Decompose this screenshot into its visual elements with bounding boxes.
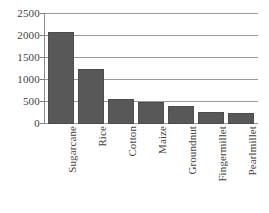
y-tick-label: 2000 — [4, 30, 40, 41]
bar-chart-figure: 2500 2000 1500 1000 500 0 Sugarcane — [0, 0, 269, 213]
y-tick-label: 0 — [4, 118, 40, 129]
x-axis-label: Maize — [157, 126, 168, 154]
bar-cotton[interactable] — [108, 99, 134, 124]
x-axis-label: Rice — [97, 126, 108, 147]
bars-layer — [44, 13, 258, 124]
x-axis-category-labels: Sugarcane Rice Cotton Maize Groundnut Fi… — [44, 124, 258, 213]
bar-groundnut[interactable] — [168, 106, 194, 124]
y-tick-label: 1000 — [4, 74, 40, 85]
bar-sugarcane[interactable] — [48, 32, 74, 124]
y-axis-tick-labels: 2500 2000 1500 1000 500 0 — [0, 0, 40, 213]
bar-fingermillet[interactable] — [198, 112, 224, 124]
x-axis-label: Sugarcane — [67, 126, 78, 173]
x-axis-label: Groundnut — [187, 126, 198, 175]
y-tick-label: 1500 — [4, 52, 40, 63]
y-tick-label: 500 — [4, 96, 40, 107]
bar-maize[interactable] — [138, 102, 164, 124]
bar-rice[interactable] — [78, 69, 104, 124]
bar-pearlmillet[interactable] — [228, 113, 254, 124]
y-tick-label: 2500 — [4, 8, 40, 19]
x-axis-label: Cotton — [127, 126, 138, 157]
x-axis-label: Pearlmillet — [247, 126, 258, 175]
x-axis-label: Fingermillet — [217, 126, 228, 182]
